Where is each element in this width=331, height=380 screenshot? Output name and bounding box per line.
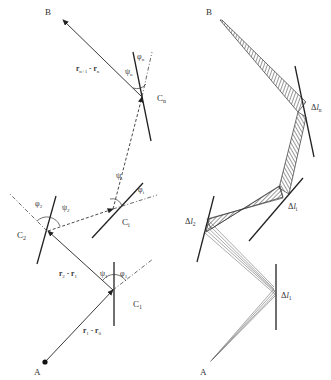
label-dl2: Δl2: [185, 216, 196, 227]
label-b-right: B: [206, 7, 212, 17]
extension-c1: [113, 259, 153, 290]
ray-a-c1: [45, 290, 113, 362]
label-dli: Δli: [288, 201, 298, 212]
label-phi2: φ2: [35, 199, 43, 209]
ray-cn-b: [63, 20, 142, 97]
label-phi1-c1: φ1: [120, 269, 128, 279]
mirror-ci: [92, 183, 143, 238]
label-dl1: Δl1: [281, 290, 292, 301]
label-psi2: ψ2: [62, 203, 70, 213]
label-psi1: ψ1: [100, 269, 108, 279]
label-r2-r1: r2 - r1: [59, 269, 77, 279]
angle-arc-ci: [110, 199, 122, 206]
label-rn1-rn: rn+1 - rn: [76, 64, 100, 74]
label-psii: ψi: [116, 171, 123, 181]
beam-dl1-dl2: [205, 221, 276, 295]
label-r1-r0: r1 - r0: [83, 326, 101, 336]
left-panel: A B C1 C2 Ci Cn r1 - r0 r2 - r1 rn+1 - r…: [10, 7, 166, 377]
label-phii: φi: [138, 185, 145, 195]
beam-dli-dln: [279, 112, 306, 194]
label-b-left: B: [45, 7, 51, 17]
ray-c1-c2: [48, 231, 113, 290]
point-a: [42, 359, 47, 364]
beam-dln-b: [220, 20, 306, 112]
beam-a-dl1: [210, 289, 276, 362]
label-a-left: A: [34, 367, 41, 377]
extension-c2: [10, 194, 47, 231]
label-c2: C2: [17, 230, 26, 241]
label-psin: ψn: [125, 67, 133, 77]
ray-c2-ci: [48, 209, 113, 231]
label-phin: φn: [137, 52, 145, 62]
label-cn: Cn: [157, 93, 166, 104]
label-ci: Ci: [122, 217, 130, 228]
right-panel: A B Δl1 Δl2 Δli Δln: [185, 7, 322, 377]
label-a-right: A: [200, 367, 207, 377]
diagram-canvas: A B C1 C2 Ci Cn r1 - r0 r2 - r1 rn+1 - r…: [0, 0, 331, 380]
label-dln: Δln: [311, 102, 322, 113]
label-c1: C1: [133, 299, 142, 310]
